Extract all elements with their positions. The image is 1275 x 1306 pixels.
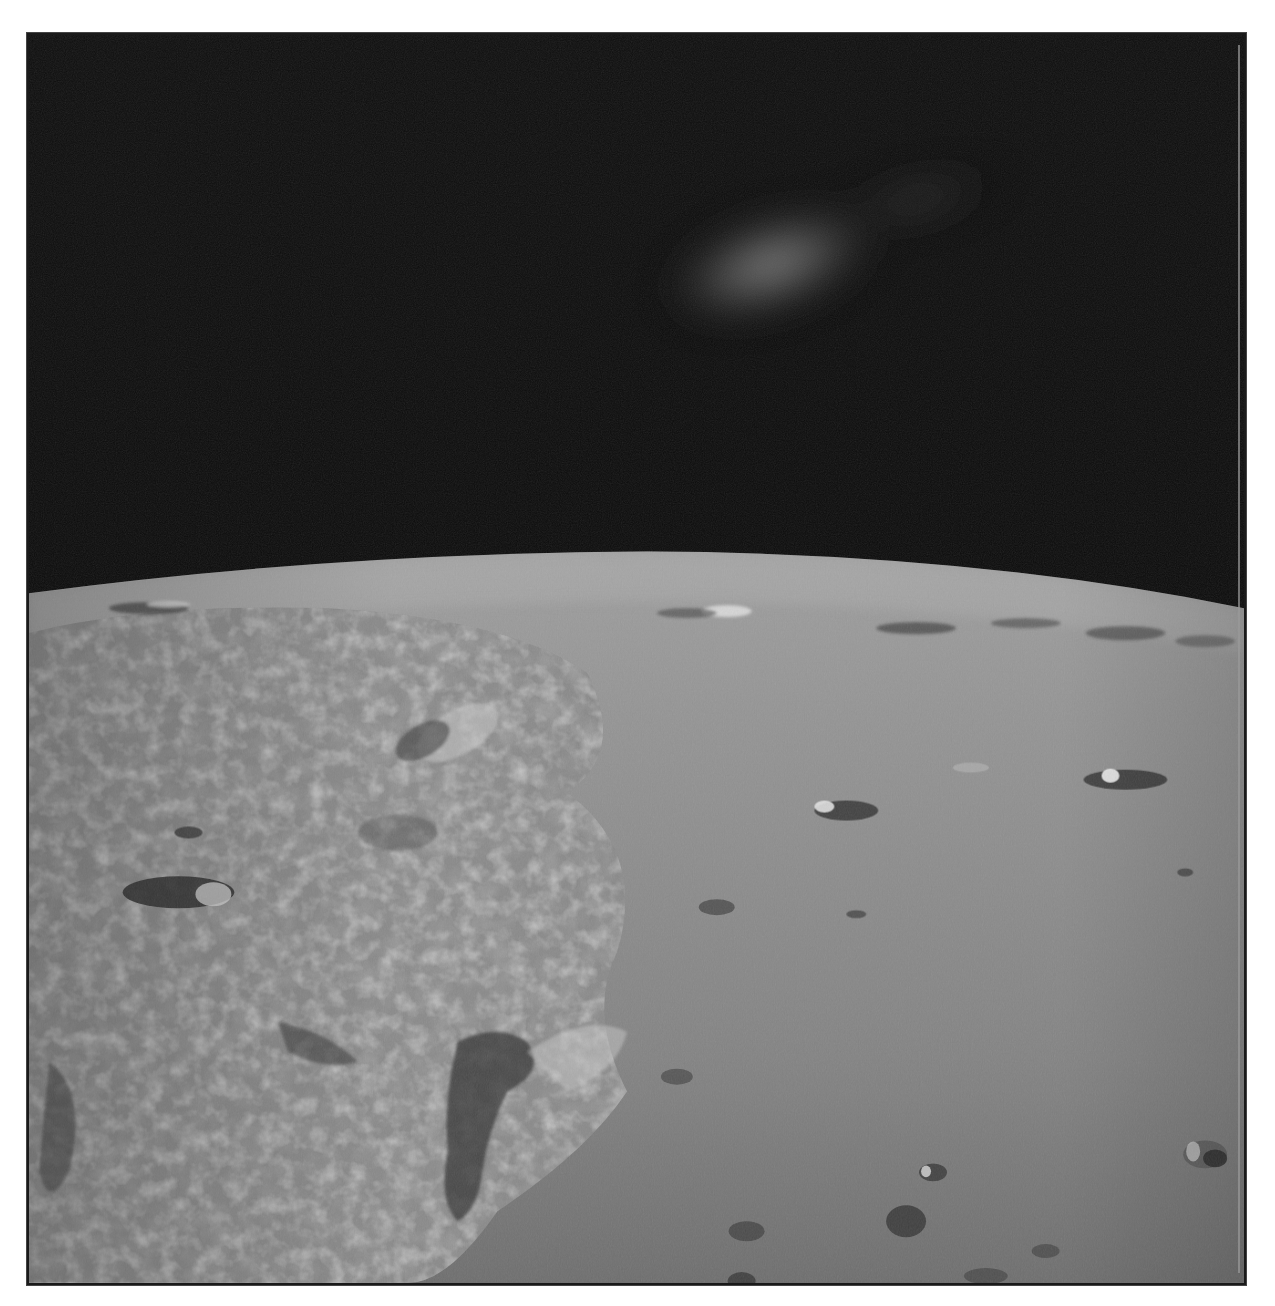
lunar-photo [29, 35, 1244, 1283]
clipped-top-text [0, 0, 1275, 6]
frame-edge-line [1238, 45, 1240, 1273]
lunar-photo-frame [27, 33, 1246, 1285]
lunar-surface [29, 533, 1244, 1283]
